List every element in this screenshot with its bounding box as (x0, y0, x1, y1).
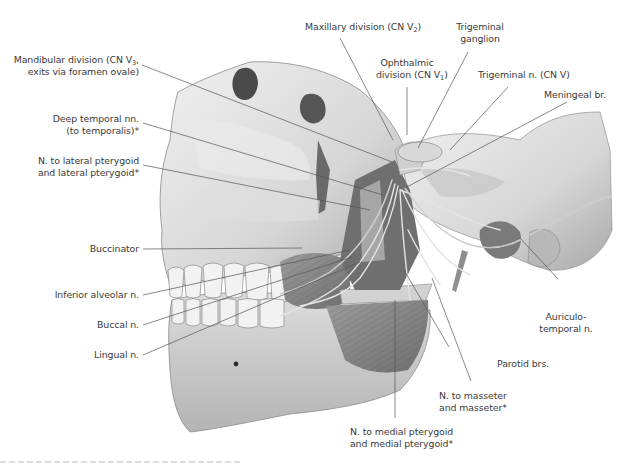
mental-foramen (234, 362, 239, 367)
anatomy-figure: Mandibular division (CN V3, exits via fo… (0, 0, 636, 464)
label-line: temporal n. (539, 323, 592, 334)
label-line: Lingual n. (94, 349, 139, 360)
label-maxillary-division: Maxillary division (CN V2) (305, 21, 421, 33)
label-line: and medial pterygoid* (350, 438, 453, 449)
label-lateral-pterygoid: N. to lateral pterygoid and lateral pter… (38, 155, 139, 179)
label-line: Maxillary division (CN V (305, 21, 413, 32)
label-trigeminal-nerve: Trigeminal n. (CN V) (478, 69, 570, 81)
label-line: Trigeminal n. (CN V) (478, 69, 570, 80)
label-auriculotemporal-nerve: Auriculo- temporal n. (536, 311, 596, 335)
label-line: Meningeal br. (544, 89, 606, 100)
label-line: and lateral pterygoid* (38, 167, 139, 178)
label-buccal-nerve: Buccal n. (97, 319, 139, 331)
label-line: Inferior alveolar n. (55, 289, 139, 300)
label-ophthalmic-division: Ophthalmic division (CN V1) (376, 57, 438, 81)
label-line: Buccinator (90, 243, 139, 254)
label-inferior-alveolar-nerve: Inferior alveolar n. (55, 289, 139, 301)
label-line: Trigeminal (456, 21, 504, 32)
label-line: Auriculo- (546, 311, 587, 322)
label-line: ganglion (460, 33, 500, 44)
figure-caption-cutoff (0, 458, 240, 464)
label-masseter-nerve: N. to masseter and masseter* (439, 390, 507, 414)
label-trigeminal-ganglion: Trigeminal ganglion (450, 21, 510, 45)
teeth (168, 263, 294, 328)
label-line: Buccal n. (97, 319, 139, 330)
label-line: exits via foramen ovale) (28, 66, 139, 77)
label-line: Deep temporal nn. (53, 113, 139, 124)
label-line-end: ) (444, 69, 448, 80)
label-lingual-nerve: Lingual n. (94, 349, 139, 361)
label-line: division (CN V (376, 69, 440, 80)
label-buccinator: Buccinator (90, 243, 139, 255)
label-medial-pterygoid: N. to medial pterygoid and medial pteryg… (350, 426, 453, 450)
label-mandibular-division: Mandibular division (CN V3, exits via fo… (14, 54, 139, 78)
label-line: Ophthalmic (380, 57, 433, 68)
label-deep-temporal-nerves: Deep temporal nn. (to temporalis)* (53, 113, 139, 137)
label-line: Parotid brs. (497, 358, 549, 369)
label-line: N. to lateral pterygoid (38, 155, 139, 166)
label-meningeal-branch: Meningeal br. (544, 89, 606, 101)
label-line: N. to masseter (439, 390, 507, 401)
label-line: N. to medial pterygoid (350, 426, 453, 437)
label-line: (to temporalis)* (66, 125, 139, 136)
label-line: Mandibular division (CN V (14, 54, 132, 65)
label-line-end: , (136, 54, 139, 65)
cranial-base (400, 112, 612, 292)
label-line-end: ) (417, 21, 421, 32)
label-parotid-branches: Parotid brs. (497, 358, 549, 370)
label-line: and masseter* (439, 402, 507, 413)
